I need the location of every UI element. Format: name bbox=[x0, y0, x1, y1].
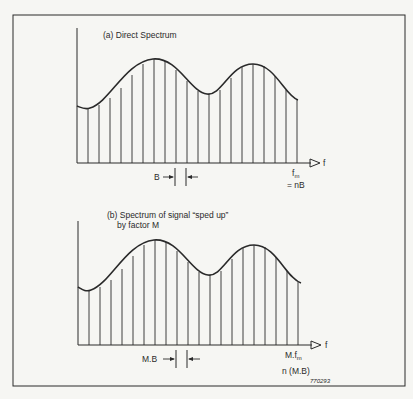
spectral-lines-b bbox=[89, 240, 298, 345]
panel-b-title-line1: (b) Spectrum of signal “sped up” bbox=[107, 210, 229, 220]
panel-b-title-line2: by factor M bbox=[117, 220, 159, 230]
arrow-right-icon bbox=[170, 357, 175, 361]
end-label-a: fm bbox=[292, 168, 299, 179]
spacing-label-b: M.B bbox=[142, 354, 157, 364]
arrow-left-icon bbox=[188, 357, 193, 361]
arrow-right-icon bbox=[169, 175, 174, 179]
panel-a: (a) Direct Spectrum f B fm = nB bbox=[77, 28, 326, 190]
x-axis-arrow-icon bbox=[311, 341, 321, 349]
end-label-eq-b: n (M.B) bbox=[282, 366, 310, 376]
end-label-b: M.fm bbox=[285, 350, 302, 361]
x-axis-label-b: f bbox=[325, 340, 328, 350]
spacing-marker-b bbox=[163, 350, 200, 368]
figure-frame bbox=[13, 15, 405, 386]
spacing-marker-a bbox=[163, 168, 198, 186]
spectral-lines-a bbox=[88, 59, 297, 163]
x-axis-label-a: f bbox=[323, 158, 326, 168]
panel-a-title: (a) Direct Spectrum bbox=[103, 30, 177, 40]
x-axis-arrow-icon bbox=[310, 159, 320, 167]
spacing-label-a: B bbox=[154, 172, 160, 182]
arrow-left-icon bbox=[187, 175, 192, 179]
end-label-eq-a: = nB bbox=[287, 180, 305, 190]
spectrum-diagram: (a) Direct Spectrum f B fm = nB bbox=[0, 0, 413, 399]
figure-id: 770293 bbox=[310, 378, 331, 384]
panel-b: (b) Spectrum of signal “sped up” by fact… bbox=[78, 210, 328, 376]
